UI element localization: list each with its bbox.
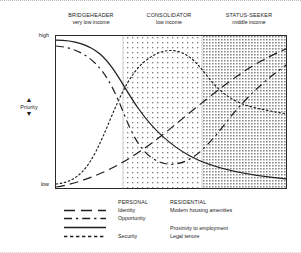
zone-heading-status-seeker: STATUS-SEEKER middle income bbox=[211, 13, 287, 25]
zone-name: BRIDGEHEADER bbox=[55, 13, 127, 19]
legend-item-proximity-to-employment: Proximity to employment bbox=[170, 225, 228, 231]
legend-column-header-personal: PERSONAL bbox=[118, 199, 148, 205]
y-axis-label-group: ▲ Priority ▼ bbox=[8, 97, 50, 117]
legend-swatch-solid bbox=[62, 224, 108, 231]
zone-heading-consolidator: CONSOLIDATOR low income bbox=[131, 13, 207, 25]
plot-area bbox=[55, 35, 287, 189]
plot-svg bbox=[56, 36, 287, 189]
figure-container: BRIDGEHEADER very low income CONSOLIDATO… bbox=[0, 0, 301, 253]
legend-item-security: Security bbox=[118, 233, 137, 239]
legend-swatch-dash-dot bbox=[62, 215, 108, 222]
legend: PERSONAL RESIDENTIAL Identity Opportunit… bbox=[62, 199, 287, 247]
zone-headings: BRIDGEHEADER very low income CONSOLIDATO… bbox=[55, 13, 287, 35]
legend-item-opportunity: Opportunity bbox=[118, 215, 145, 221]
zone-heading-bridgeheader: BRIDGEHEADER very low income bbox=[55, 13, 127, 25]
legend-item-modern-housing-amenities: Modern housing amenities bbox=[170, 207, 232, 213]
y-axis-tick-high: high bbox=[23, 32, 49, 38]
zone-name: CONSOLIDATOR bbox=[131, 13, 207, 19]
legend-swatch-fine-dotted bbox=[62, 233, 108, 240]
arrow-down-icon: ▼ bbox=[8, 111, 50, 117]
zone-subtitle: very low income bbox=[55, 20, 127, 25]
zone-subtitle: low income bbox=[131, 20, 207, 25]
y-axis-tick-low: low bbox=[23, 181, 49, 187]
legend-column-header-residential: RESIDENTIAL bbox=[170, 199, 206, 205]
legend-item-legal-tenure: Legal tenure bbox=[170, 233, 199, 239]
zone-subtitle: middle income bbox=[211, 20, 287, 25]
zone-name: STATUS-SEEKER bbox=[211, 13, 287, 19]
legend-swatch-long-dash bbox=[62, 207, 108, 214]
legend-item-identity: Identity bbox=[118, 207, 135, 213]
